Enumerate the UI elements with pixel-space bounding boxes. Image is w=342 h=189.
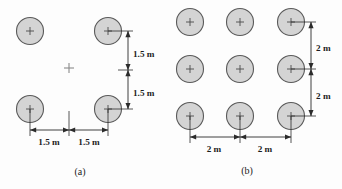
dimension-label: 2 m [207,144,222,154]
panel-a-extension-lines [30,31,133,136]
panel-b: 2 m 2 m 2 m 2 m (b) [177,9,331,178]
panel-b-caption: (b) [241,165,253,177]
panel-a-horizontal-dimension-left: 1.5 m [30,130,69,147]
dimension-label: 1.5 m [133,88,155,98]
pile-marker [177,56,204,83]
panel-b-piles [177,9,305,130]
dimension-label: 2 m [316,43,331,53]
panel-a-vertical-dimension-lower: 1.5 m [128,70,155,109]
dimension-label: 1.5 m [38,137,60,147]
panel-a-horizontal-dimension-right: 1.5 m [69,130,108,147]
panel-a-vertical-dimension-upper: 1.5 m [128,31,155,70]
pile-marker [227,9,254,36]
panel-b-vertical-dimension-upper: 2 m [311,22,331,69]
dimension-label: 2 m [316,91,331,101]
pile-layout-figure: 1.5 m 1.5 m 1.5 m 1.5 m (a) [0,0,342,189]
panel-b-horizontal-dimension-right: 2 m [240,137,291,154]
pile-marker [227,56,254,83]
group-center-cross-icon [64,63,74,73]
pile-marker [17,18,44,45]
dimension-label: 1.5 m [78,137,100,147]
panel-a-caption: (a) [74,166,85,178]
pile-marker [177,9,204,36]
figure-canvas: 1.5 m 1.5 m 1.5 m 1.5 m (a) [0,0,342,189]
dimension-label: 1.5 m [133,49,155,59]
panel-b-vertical-dimension-lower: 2 m [311,69,331,116]
dimension-label: 2 m [258,144,273,154]
panel-a: 1.5 m 1.5 m 1.5 m 1.5 m (a) [17,18,155,179]
panel-b-horizontal-dimension-left: 2 m [190,137,240,154]
